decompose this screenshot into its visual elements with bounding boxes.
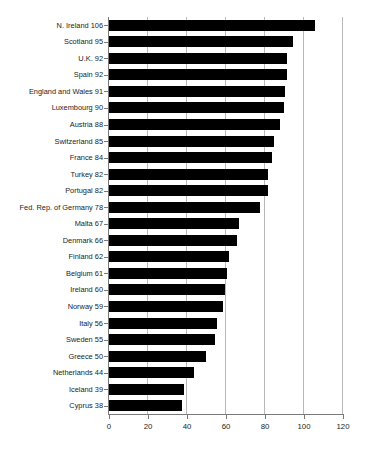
category-label: Denmark 66 <box>0 236 103 245</box>
value-tick-label: 60 <box>222 422 231 432</box>
category-label: Greece 50 <box>0 352 103 361</box>
category-label: Scotland 95 <box>0 37 103 46</box>
bar <box>108 318 217 329</box>
bar <box>108 136 274 147</box>
category-axis-labels: N. Ireland 106Scotland 95U.K. 92Spain 92… <box>0 17 103 414</box>
category-tick <box>104 224 108 225</box>
category-tick <box>104 125 108 126</box>
bar-series <box>108 17 342 414</box>
value-tick <box>304 414 305 419</box>
category-tick <box>104 257 108 258</box>
bar-row <box>108 284 342 295</box>
bar-row <box>108 301 342 312</box>
category-label: Turkey 82 <box>0 170 103 179</box>
bar-row <box>108 367 342 378</box>
bar <box>108 268 227 279</box>
category-label: Austria 88 <box>0 120 103 129</box>
value-tick <box>148 414 149 419</box>
category-tick <box>104 108 108 109</box>
category-label: Cyprus 38 <box>0 401 103 410</box>
bar-row <box>108 351 342 362</box>
category-tick <box>104 373 108 374</box>
bar-row <box>108 36 342 47</box>
category-tick <box>104 174 108 175</box>
category-tick <box>104 406 108 407</box>
bar <box>108 185 268 196</box>
bar-row <box>108 136 342 147</box>
bar <box>108 400 182 411</box>
bar-row <box>108 235 342 246</box>
category-tick <box>104 356 108 357</box>
category-tick <box>104 273 108 274</box>
category-label: Malta 67 <box>0 219 103 228</box>
category-tick <box>104 290 108 291</box>
bar-row <box>108 185 342 196</box>
bar-row <box>108 86 342 97</box>
category-tick <box>104 191 108 192</box>
bar-row <box>108 400 342 411</box>
bar-row <box>108 268 342 279</box>
bar-row <box>108 218 342 229</box>
bar-row <box>108 334 342 345</box>
bar <box>108 53 287 64</box>
bar <box>108 351 206 362</box>
bar-row <box>108 384 342 395</box>
value-tick <box>265 414 266 419</box>
category-tick <box>104 75 108 76</box>
category-tick <box>104 141 108 142</box>
category-label: U.K. 92 <box>0 54 103 63</box>
bar <box>108 202 260 213</box>
bar <box>108 119 280 130</box>
value-tick <box>187 414 188 419</box>
bar <box>108 20 315 31</box>
bar <box>108 69 287 80</box>
value-tick-label: 80 <box>261 422 270 432</box>
category-tick <box>104 323 108 324</box>
value-axis-tick-labels: 020406080100120 <box>0 422 368 434</box>
bar <box>108 384 184 395</box>
bar-row <box>108 169 342 180</box>
plot-area <box>108 17 342 414</box>
gridline <box>342 17 343 414</box>
bar-row <box>108 152 342 163</box>
value-tick <box>109 414 110 419</box>
category-label: Fed. Rep. of Germany 78 <box>0 203 103 212</box>
bar <box>108 301 223 312</box>
category-label: Spain 92 <box>0 70 103 79</box>
bar <box>108 235 237 246</box>
bar-row <box>108 318 342 329</box>
bar-row <box>108 53 342 64</box>
value-axis-ticks <box>0 414 368 420</box>
bar-row <box>108 119 342 130</box>
category-label: Belgium 61 <box>0 269 103 278</box>
category-tick <box>104 25 108 26</box>
category-axis-line <box>108 17 109 415</box>
bar <box>108 86 285 97</box>
category-label: Italy 56 <box>0 319 103 328</box>
bar-row <box>108 251 342 262</box>
bar-chart: N. Ireland 106Scotland 95U.K. 92Spain 92… <box>0 0 368 454</box>
category-label: Sweden 55 <box>0 335 103 344</box>
category-label: Finland 62 <box>0 252 103 261</box>
category-label: Luxembourg 90 <box>0 103 103 112</box>
bar-row <box>108 20 342 31</box>
bar <box>108 152 272 163</box>
value-tick-label: 0 <box>107 422 111 432</box>
bar-row <box>108 69 342 80</box>
bar-row <box>108 202 342 213</box>
category-tick <box>104 340 108 341</box>
category-label: France 84 <box>0 153 103 162</box>
category-label: Netherlands 44 <box>0 368 103 377</box>
category-tick <box>104 58 108 59</box>
category-label: Portugal 82 <box>0 186 103 195</box>
category-label: England and Wales 91 <box>0 87 103 96</box>
category-label: N. Ireland 106 <box>0 21 103 30</box>
category-label: Iceland 39 <box>0 385 103 394</box>
bar <box>108 334 215 345</box>
category-tick <box>104 91 108 92</box>
bar <box>108 169 268 180</box>
category-tick <box>104 42 108 43</box>
category-tick <box>104 207 108 208</box>
category-tick <box>104 389 108 390</box>
bar <box>108 218 239 229</box>
